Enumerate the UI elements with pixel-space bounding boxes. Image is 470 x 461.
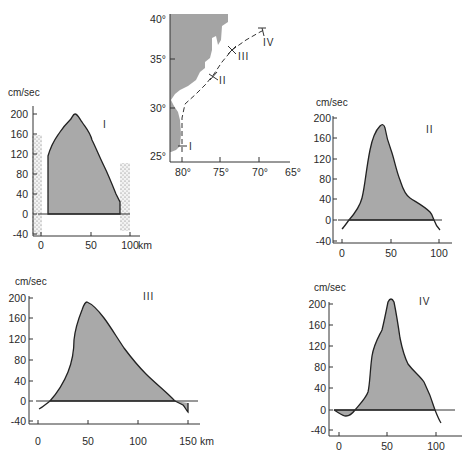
svg-text:50: 50 [85,239,97,251]
map-lon-70: 70° [252,166,268,178]
svg-text:km: km [138,239,152,251]
svg-text:0: 0 [22,208,28,220]
map-lon-80: 80° [175,166,191,178]
svg-text:50: 50 [82,435,94,447]
svg-text:120: 120 [308,340,326,352]
chart-III-y-unit: cm/sec [15,276,47,287]
map-x-tick-labels: 80° 75° 70° 65° [175,166,301,178]
svg-text:160: 160 [10,128,28,140]
map-y-tick-labels: 40° 35° 30° 25° [150,13,166,162]
svg-text:0: 0 [336,440,342,452]
map-section-II-label: II [219,75,227,86]
svg-text:100: 100 [430,247,448,259]
chart-IV-x-ticks: 0 50 100 [336,432,445,452]
figure: 40° 35° 30° 25° 80° 75° 70° 65° I II III… [0,0,470,461]
chart-I-label: I [103,119,107,130]
svg-text:160: 160 [8,312,26,324]
svg-text:40: 40 [314,382,326,394]
svg-text:200: 200 [308,298,326,310]
svg-text:0: 0 [35,435,41,447]
map-lat-40: 40° [150,13,166,25]
svg-text:120: 120 [8,333,26,345]
svg-text:100: 100 [129,435,147,447]
chart-II-y-unit: cm/sec [316,97,348,108]
chart-III-velocity-curve [50,302,175,401]
svg-text:120: 120 [313,153,331,165]
map-section-III-label: III [238,51,249,62]
chart-IV-velocity-curve-main [355,299,435,410]
chart-II-x-ticks: 0 50 100 [339,239,448,259]
svg-text:160: 160 [313,132,331,144]
chart-section-I: cm/sec 200 160 120 80 40 0 -40 0 50 100 … [8,87,152,251]
svg-text:40: 40 [14,375,26,387]
chart-IV-y-unit: cm/sec [314,282,346,293]
svg-text:40: 40 [319,193,331,205]
svg-text:200: 200 [8,292,26,304]
svg-text:160: 160 [308,319,326,331]
chart-IV-label: IV [419,296,430,307]
svg-text:80: 80 [16,168,28,180]
svg-text:100: 100 [121,239,139,251]
chart-I-velocity-curve [48,114,120,214]
map-lat-30: 30° [150,102,166,114]
svg-text:120: 120 [10,148,28,160]
map-lon-75: 75° [213,166,229,178]
svg-text:50: 50 [385,247,397,259]
svg-text:200: 200 [10,108,28,120]
map-section-IV-label: IV [263,37,274,48]
svg-text:-40: -40 [13,228,28,240]
chart-I-y-unit: cm/sec [8,87,40,98]
svg-text:40: 40 [16,188,28,200]
svg-text:100: 100 [427,440,445,452]
svg-text:-40: -40 [11,415,26,427]
chart-section-IV: cm/sec 200 160 120 80 40 0 -40 0 50 100 … [308,282,462,452]
svg-text:80: 80 [319,173,331,185]
map-lon-65: 65° [285,166,301,178]
chart-I-right-stipple [120,163,130,231]
chart-II-label: II [426,124,434,135]
svg-text:80: 80 [14,354,26,366]
location-map: 40° 35° 30° 25° 80° 75° 70° 65° I II III… [150,13,301,178]
svg-text:km: km [200,435,214,447]
svg-text:200: 200 [313,112,331,124]
chart-IV-velocity-curve [334,410,355,416]
chart-section-II: cm/sec 200 160 120 80 40 0 -40 0 50 100 … [313,97,452,259]
chart-III-label: III [143,291,154,302]
map-lat-35: 35° [150,53,166,65]
svg-text:0: 0 [20,395,26,407]
svg-text:150: 150 [179,435,197,447]
chart-I-x-ticks: 0 50 100 km [38,232,152,251]
chart-II-velocity-curve [349,125,434,220]
svg-text:0: 0 [320,404,326,416]
svg-text:-40: -40 [316,235,331,247]
svg-text:50: 50 [381,440,393,452]
chart-section-III: cm/sec 200 160 120 80 40 0 -40 0 50 100 … [8,276,214,447]
svg-text:0: 0 [339,247,345,259]
svg-text:-40: -40 [311,424,326,436]
map-lat-25: 25° [150,150,166,162]
map-section-I-label: I [189,141,193,152]
svg-text:80: 80 [314,361,326,373]
svg-text:0: 0 [325,214,331,226]
svg-text:0: 0 [38,239,44,251]
